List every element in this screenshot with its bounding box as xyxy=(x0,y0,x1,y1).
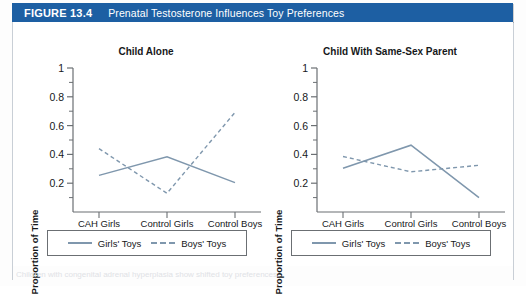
figure-title: Prenatal Testosterone Influences Toy Pre… xyxy=(108,7,344,19)
figure-header-content: FIGURE 13.4 Prenatal Testosterone Influe… xyxy=(12,3,344,22)
legend-entry-boys-toys: Boys' Toys xyxy=(395,238,470,249)
charts-row: Child Alone Proportion of Time xyxy=(13,22,513,266)
x-axis-tick-labels-right: CAH Girls Control Girls Control Boys xyxy=(265,218,515,230)
legend-entry-boys-toys: Boys' Toys xyxy=(151,238,226,249)
y-tick-label: 0.8 xyxy=(49,91,64,103)
y-tick-label: 1 xyxy=(58,62,64,74)
legend-label-boys-toys: Boys' Toys xyxy=(425,238,470,249)
series-line-boys-toys xyxy=(343,157,479,172)
figure-body: Child Alone Proportion of Time xyxy=(13,22,513,266)
x-axis-tick-labels-left: CAH Girls Control Girls Control Boys xyxy=(21,218,271,230)
x-tick-label-cah-girls: CAH Girls xyxy=(317,218,369,229)
y-axis-ticks-left xyxy=(67,68,73,198)
legend-entry-girls-toys: Girls' Toys xyxy=(68,238,141,249)
x-tick-label-control-boys: Control Boys xyxy=(207,218,263,229)
chart-legend-left: Girls' Toys Boys' Toys xyxy=(47,230,247,256)
y-axis-tick-labels-left: 1 0.8 0.6 0.4 0.2 xyxy=(49,62,64,189)
legend-line-dashed-icon xyxy=(395,242,419,244)
y-axis-ticks-right xyxy=(311,68,317,198)
legend-line-dashed-icon xyxy=(151,242,175,244)
figure-number: FIGURE 13.4 xyxy=(24,7,92,19)
line-chart-left: 1 0.8 0.6 0.4 0.2 xyxy=(21,62,271,222)
figure-header-bar: FIGURE 13.4 Prenatal Testosterone Influe… xyxy=(12,3,513,22)
y-tick-label: 0.6 xyxy=(293,120,308,132)
chart-title-right: Child With Same-Sex Parent xyxy=(265,46,515,57)
y-tick-label: 0.2 xyxy=(49,177,64,189)
legend-label-girls-toys: Girls' Toys xyxy=(342,238,385,249)
legend-line-solid-icon xyxy=(312,242,336,244)
line-chart-right: 1 0.8 0.6 0.4 0.2 xyxy=(265,62,515,222)
x-tick-label-cah-girls: CAH Girls xyxy=(73,218,125,229)
x-tick-label-control-boys: Control Boys xyxy=(451,218,507,229)
y-tick-label: 1 xyxy=(302,62,308,74)
legend-entry-girls-toys: Girls' Toys xyxy=(312,238,385,249)
chart-title-left: Child Alone xyxy=(21,46,271,57)
figure-caption-line: Children with congenital adrenal hyperpl… xyxy=(16,270,508,280)
y-tick-label: 0.4 xyxy=(49,148,64,160)
y-axis-tick-labels-right: 1 0.8 0.6 0.4 0.2 xyxy=(293,62,308,189)
y-tick-label: 0.6 xyxy=(49,120,64,132)
x-tick-label-control-girls: Control Girls xyxy=(139,218,195,229)
series-line-boys-toys xyxy=(99,112,235,193)
plot-area-right: Proportion of Time xyxy=(265,62,515,222)
legend-line-solid-icon xyxy=(68,242,92,244)
y-tick-label: 0.2 xyxy=(293,177,308,189)
figure-caption: Children with congenital adrenal hyperpl… xyxy=(16,270,508,284)
y-tick-label: 0.8 xyxy=(293,91,308,103)
chart-panel-child-alone: Child Alone Proportion of Time xyxy=(21,22,271,266)
x-tick-label-control-girls: Control Girls xyxy=(383,218,439,229)
series-line-girls-toys xyxy=(343,145,479,197)
legend-label-boys-toys: Boys' Toys xyxy=(181,238,226,249)
series-line-girls-toys xyxy=(99,157,235,183)
plot-area-left: Proportion of Time xyxy=(21,62,271,222)
chart-legend-right: Girls' Toys Boys' Toys xyxy=(291,230,491,256)
y-tick-label: 0.4 xyxy=(293,148,308,160)
chart-panel-child-with-same-sex-parent: Child With Same-Sex Parent Proportion of… xyxy=(265,22,515,266)
legend-label-girls-toys: Girls' Toys xyxy=(98,238,141,249)
